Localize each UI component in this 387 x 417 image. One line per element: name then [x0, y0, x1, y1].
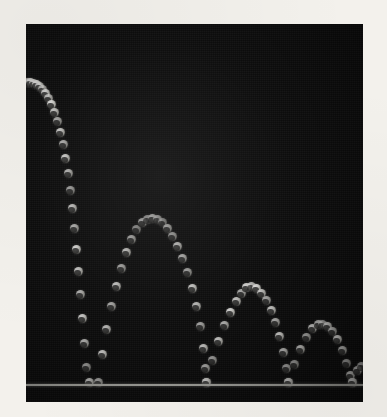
floor-line: [26, 384, 363, 386]
vignette-overlay: [26, 24, 363, 402]
ball-image: [64, 169, 73, 178]
ball-image: [117, 264, 126, 273]
ball-image: [74, 267, 83, 276]
ball-image: [53, 117, 62, 126]
ball-image: [296, 345, 305, 354]
ball-image: [275, 332, 284, 341]
ball-image: [173, 242, 182, 251]
ball-image: [61, 154, 70, 163]
ball-image: [78, 314, 87, 323]
ball-image: [271, 318, 280, 327]
ball-image: [262, 296, 271, 305]
ball-image: [168, 232, 177, 241]
ball-image: [66, 186, 75, 195]
ball-image: [127, 235, 136, 244]
ball-image: [279, 348, 288, 357]
ball-image: [357, 362, 364, 371]
ball-image: [102, 325, 111, 334]
ball-image: [226, 308, 235, 317]
ball-image: [68, 204, 77, 213]
ball-image: [302, 333, 311, 342]
ball-image: [201, 364, 210, 373]
ball-image: [107, 302, 116, 311]
ball-image: [98, 350, 107, 359]
ball-image: [328, 327, 337, 336]
ball-image: [50, 108, 59, 117]
ball-image: [70, 224, 79, 233]
ball-image: [220, 321, 229, 330]
ball-image: [72, 245, 81, 254]
ball-image: [338, 346, 347, 355]
ball-image: [59, 140, 68, 149]
ball-image: [208, 356, 217, 365]
ball-image: [82, 363, 91, 372]
stroboscopic-photo: [26, 24, 363, 402]
ball-image: [342, 359, 351, 368]
ball-image: [112, 282, 121, 291]
photograph-page: [0, 0, 387, 417]
ball-image: [76, 290, 85, 299]
film-grain-overlay: [26, 24, 363, 402]
ball-image: [183, 268, 192, 277]
ball-image: [232, 297, 241, 306]
ball-image: [333, 335, 342, 344]
ball-image: [80, 339, 89, 348]
ball-image: [56, 128, 65, 137]
ball-image: [196, 322, 205, 331]
ball-image: [122, 248, 131, 257]
ball-image: [178, 254, 187, 263]
ball-image: [163, 224, 172, 233]
ball-image: [199, 344, 208, 353]
ball-image: [188, 284, 197, 293]
ball-image: [214, 337, 223, 346]
ball-image: [290, 360, 299, 369]
ball-image: [267, 306, 276, 315]
ball-image: [192, 302, 201, 311]
